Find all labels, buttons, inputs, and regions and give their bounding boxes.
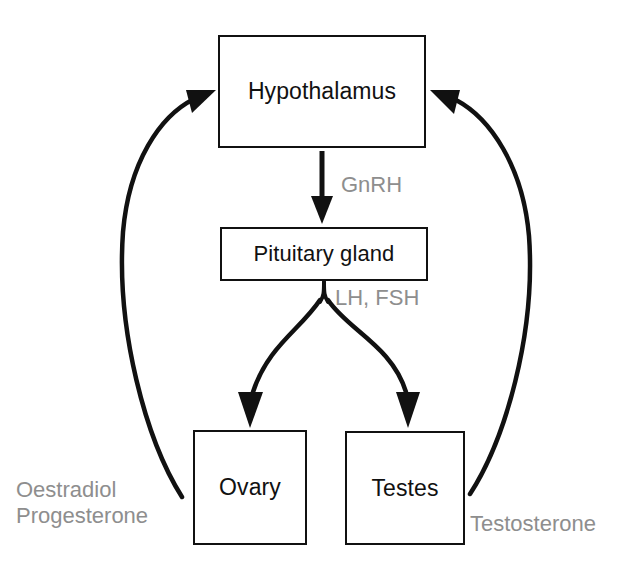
node-hypothalamus-label: Hypothalamus (248, 78, 396, 105)
node-testes: Testes (345, 431, 465, 545)
edge-pituitary-to-testes (328, 300, 420, 428)
node-pituitary-gland: Pituitary gland (220, 227, 428, 281)
hormone-axis-diagram: Hypothalamus Pituitary gland Ovary Teste… (0, 0, 635, 583)
edge-label-oestradiol: Oestradiol (16, 477, 148, 503)
node-hypothalamus: Hypothalamus (218, 35, 426, 148)
edge-label-lh-fsh: LH, FSH (335, 285, 419, 311)
edge-label-testosterone: Testosterone (470, 511, 596, 537)
edge-label-progesterone: Progesterone (16, 503, 148, 529)
node-pituitary-gland-label: Pituitary gland (254, 241, 395, 267)
edge-label-ovarian-hormones: Oestradiol Progesterone (16, 477, 148, 529)
node-ovary-label: Ovary (219, 474, 281, 501)
edge-label-gnrh: GnRH (341, 172, 402, 198)
node-testes-label: Testes (371, 475, 438, 502)
edge-pituitary-to-ovary (238, 300, 320, 428)
node-ovary: Ovary (193, 430, 307, 545)
edge-hypothalamus-to-pituitary (311, 151, 333, 224)
